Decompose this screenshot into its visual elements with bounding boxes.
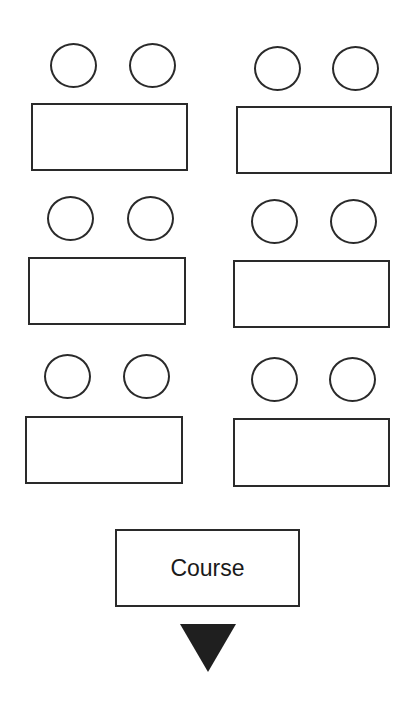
- down-triangle-icon: [180, 624, 236, 672]
- desk-r2-right: [233, 260, 390, 328]
- desk-r2-left: [28, 257, 186, 325]
- desk-r1-right: [236, 106, 392, 174]
- seat-r1-r2: [332, 46, 379, 91]
- seat-r2-l2: [127, 196, 174, 241]
- desk-r3-left: [25, 416, 183, 484]
- seat-r1-l1: [50, 43, 97, 88]
- course-box: Course: [115, 529, 300, 607]
- seat-r3-r2: [329, 357, 376, 402]
- desk-r1-left: [31, 103, 188, 171]
- course-label: Course: [170, 555, 244, 582]
- seat-r3-l1: [44, 354, 91, 399]
- seat-r2-r1: [251, 199, 298, 244]
- seat-r1-r1: [254, 46, 301, 91]
- seat-r2-r2: [330, 199, 377, 244]
- desk-r3-right: [233, 418, 390, 487]
- seat-r2-l1: [47, 196, 94, 241]
- seat-r1-l2: [129, 43, 176, 88]
- seat-r3-r1: [251, 357, 298, 402]
- seat-r3-l2: [123, 354, 170, 399]
